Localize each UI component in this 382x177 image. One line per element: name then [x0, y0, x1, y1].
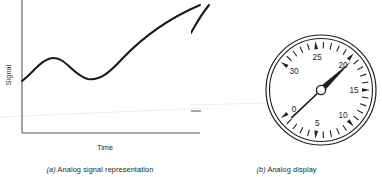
gauge-hub [316, 85, 325, 94]
analog-signal-plot: Signal Time [0, 0, 210, 150]
panel-analog-display: 051015202530 (b) Analog display [191, 0, 382, 177]
gauge-label-25: 25 [313, 53, 323, 62]
analog-gauge: 051015202530 [191, 0, 382, 155]
gauge-label-10: 10 [338, 111, 348, 120]
panel-analog-signal: Signal Time (a) Analog signal representa… [0, 0, 200, 177]
caption-panel-a: (a) Analog signal representation [0, 165, 200, 174]
caption-text-a: Analog signal representation [58, 165, 154, 174]
caption-index-b: (b) [256, 165, 265, 174]
gauge-label-0: 0 [292, 105, 297, 114]
caption-panel-b: (b) Analog display [191, 165, 382, 174]
scan-artifact-line [0, 108, 209, 117]
caption-index-a: (a) [47, 165, 56, 174]
signal-curve [22, 5, 200, 81]
x-axis-label: Time [97, 143, 113, 150]
gauge-label-30: 30 [289, 67, 299, 76]
gauge-label-15: 15 [349, 86, 359, 95]
y-axis-label: Signal [4, 64, 13, 85]
scan-artifact-curve [191, 5, 209, 33]
caption-text-b: Analog display [267, 165, 316, 174]
figure-container: Signal Time (a) Analog signal representa… [0, 0, 382, 177]
gauge-label-5: 5 [315, 119, 320, 128]
